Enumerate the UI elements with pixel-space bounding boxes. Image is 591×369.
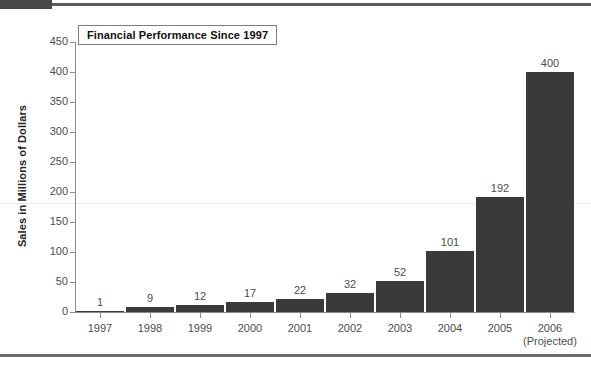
x-tick-label-year: 2003 bbox=[388, 322, 412, 334]
y-tick-label-wrap: 350 bbox=[28, 96, 68, 107]
bar-value-label: 12 bbox=[175, 291, 225, 302]
bar bbox=[376, 281, 424, 312]
x-tick-label-year: 2006 bbox=[538, 322, 562, 334]
bar-value-label: 32 bbox=[325, 279, 375, 290]
x-tick-sublabel: (Projected) bbox=[520, 335, 580, 348]
x-tick bbox=[450, 313, 451, 318]
x-tick-label-year: 1997 bbox=[88, 322, 112, 334]
bar bbox=[426, 251, 474, 312]
y-tick-label: 400 bbox=[32, 66, 68, 77]
bar-value-label: 192 bbox=[475, 183, 525, 194]
y-tick bbox=[70, 192, 75, 193]
bar-value-label: 52 bbox=[375, 267, 425, 278]
y-tick-label-wrap: 400 bbox=[28, 66, 68, 77]
bar bbox=[126, 307, 174, 312]
y-tick bbox=[70, 132, 75, 133]
x-tick bbox=[100, 313, 101, 318]
y-tick-label-wrap: 100 bbox=[28, 246, 68, 257]
y-tick bbox=[70, 42, 75, 43]
y-tick-label: 200 bbox=[32, 186, 68, 197]
bar bbox=[226, 302, 274, 312]
x-tick bbox=[300, 313, 301, 318]
x-tick bbox=[150, 313, 151, 318]
y-tick-label: 300 bbox=[32, 126, 68, 137]
y-tick-label: 350 bbox=[32, 96, 68, 107]
bar bbox=[76, 311, 124, 312]
x-tick bbox=[400, 313, 401, 318]
x-tick-label-year: 2000 bbox=[238, 322, 262, 334]
bar bbox=[176, 305, 224, 312]
x-tick-label-year: 2004 bbox=[438, 322, 462, 334]
chart-title-box: Financial Performance Since 1997 bbox=[78, 25, 277, 45]
y-axis-line bbox=[75, 42, 76, 313]
y-tick bbox=[70, 252, 75, 253]
y-tick bbox=[70, 222, 75, 223]
x-tick-label-year: 1998 bbox=[138, 322, 162, 334]
y-tick-label: 150 bbox=[32, 216, 68, 227]
bar-value-label: 101 bbox=[425, 237, 475, 248]
y-tick-label: 250 bbox=[32, 156, 68, 167]
y-axis-title: Sales in Millions of Dollars bbox=[16, 91, 28, 261]
x-tick bbox=[550, 313, 551, 318]
footer-rule bbox=[0, 354, 591, 357]
bar bbox=[526, 72, 574, 312]
x-tick bbox=[350, 313, 351, 318]
y-tick-label-wrap: 200 bbox=[28, 186, 68, 197]
y-tick-label-wrap: 450 bbox=[28, 36, 68, 47]
bar-value-label: 1 bbox=[75, 297, 125, 308]
x-tick bbox=[250, 313, 251, 318]
y-tick-label: 50 bbox=[32, 276, 68, 287]
y-tick bbox=[70, 282, 75, 283]
y-tick-label-wrap: 250 bbox=[28, 156, 68, 167]
y-tick-label-wrap: 150 bbox=[28, 216, 68, 227]
y-tick-label-wrap: 50 bbox=[28, 276, 68, 287]
x-tick bbox=[200, 313, 201, 318]
bar bbox=[326, 293, 374, 312]
bar bbox=[476, 197, 524, 312]
chart-title: Financial Performance Since 1997 bbox=[87, 29, 268, 41]
y-tick bbox=[70, 162, 75, 163]
x-tick-label: 2006(Projected) bbox=[520, 322, 580, 348]
y-tick-label: 450 bbox=[32, 36, 68, 47]
x-tick-label-year: 2001 bbox=[288, 322, 312, 334]
y-tick bbox=[70, 102, 75, 103]
bar-value-label: 400 bbox=[525, 58, 575, 69]
bar-chart: Sales in Millions of Dollars 05010015020… bbox=[0, 0, 591, 354]
y-tick-label: 0 bbox=[32, 306, 68, 317]
bar-value-label: 17 bbox=[225, 288, 275, 299]
y-tick-label-wrap: 0 bbox=[28, 306, 68, 317]
x-tick-label-year: 2005 bbox=[488, 322, 512, 334]
y-tick-label: 100 bbox=[32, 246, 68, 257]
x-tick bbox=[500, 313, 501, 318]
x-tick-label-year: 1999 bbox=[188, 322, 212, 334]
y-tick-label-wrap: 300 bbox=[28, 126, 68, 137]
bar-value-label: 22 bbox=[275, 285, 325, 296]
bar bbox=[276, 299, 324, 312]
x-tick-label-year: 2002 bbox=[338, 322, 362, 334]
bar-value-label: 9 bbox=[125, 293, 175, 304]
y-tick bbox=[70, 312, 75, 313]
y-tick bbox=[70, 72, 75, 73]
